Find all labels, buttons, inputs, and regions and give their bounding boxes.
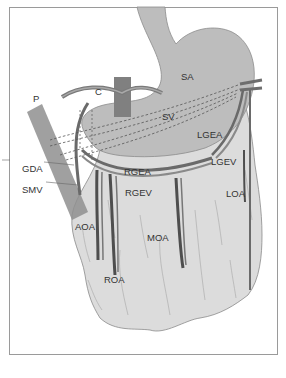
label-LGEV: LGEV <box>211 156 237 167</box>
label-MOA: MOA <box>147 232 169 243</box>
crus-bar <box>114 77 131 117</box>
label-LGEA: LGEA <box>197 129 223 140</box>
label-RGEV: RGEV <box>125 187 153 198</box>
label-ROA: ROA <box>104 274 125 285</box>
label-RGEA: RGEA <box>124 166 152 177</box>
label-GDA: GDA <box>22 163 43 174</box>
label-LOA: LOA <box>226 188 246 199</box>
aoa-vessel <box>97 170 98 260</box>
label-SMV: SMV <box>22 184 43 195</box>
label-P: P <box>33 93 39 104</box>
label-AOA: AOA <box>75 221 96 232</box>
label-C: C <box>95 86 102 97</box>
anatomy-diagram: P C SA SV LGEA LGEV GDA SMV RGEA RGEV AO… <box>0 0 286 378</box>
label-SA: SA <box>181 71 194 82</box>
label-SV: SV <box>162 111 175 122</box>
